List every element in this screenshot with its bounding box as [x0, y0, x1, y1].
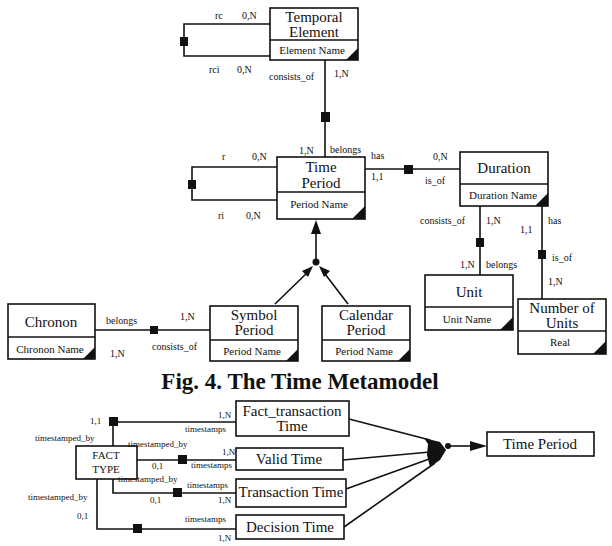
figure-caption: Fig. 4. The Time Metamodel: [161, 369, 438, 394]
entity-unit: Unit Unit Name: [425, 275, 513, 330]
generalization-fact-time-period: [343, 419, 487, 527]
role-label: timestamps: [191, 460, 232, 470]
entity-valid-time: Valid Time: [236, 448, 343, 470]
cardinality-label: 1,1: [90, 416, 101, 426]
relationship-marker-icon: [404, 165, 413, 174]
role-label: consists_of: [269, 71, 315, 82]
role-label: consists_of: [152, 341, 198, 352]
entity-title: Element: [289, 24, 340, 40]
entity-attribute: Period Name: [335, 345, 393, 357]
role-label: belongs: [330, 144, 361, 155]
relationship-marker-icon: [188, 180, 196, 189]
relationship-marker-icon: [538, 250, 546, 259]
entity-chronon: Chronon Chronon Name: [8, 304, 95, 359]
entity-number-of-units: Number of Units Real: [518, 299, 606, 354]
cardinality-label: 1,N: [334, 68, 349, 79]
role-label: timestamped_by: [128, 439, 188, 449]
entity-time-period-target: Time Period: [487, 432, 594, 456]
role-label: timestamped_by: [118, 474, 178, 484]
arrow-head-icon: [319, 266, 330, 277]
relationship-marker-icon: [321, 112, 330, 122]
relation-tp-duration: has 1,1 0,N is_of: [365, 150, 460, 186]
relation-transaction-time: timestamped_by 0,1 timestamps 1,N: [113, 474, 236, 505]
entity-title: Period: [346, 322, 386, 338]
role-label: timestamps: [185, 514, 226, 524]
entity-title: Calendar: [339, 307, 393, 323]
arrow-head-icon: [311, 220, 321, 234]
cardinality-label: 1,N: [218, 410, 232, 420]
role-label: ri: [218, 210, 224, 221]
entity-title: Temporal: [285, 9, 342, 25]
relation-duration-nou: has 1,1 is_of 1,N: [520, 206, 573, 299]
entity-attribute: Real: [550, 336, 570, 348]
entity-title: Time: [276, 418, 307, 434]
cardinality-label: 1,N: [110, 348, 125, 359]
cardinality-label: 0,N: [242, 10, 257, 21]
relation-tp-self: r 0,N ri 0,N: [188, 151, 277, 221]
cardinality-label: 1,N: [218, 533, 232, 543]
cardinality-label: 1,N: [180, 311, 195, 322]
entity-attribute: Period Name: [290, 198, 348, 210]
relationship-marker-icon: [150, 326, 158, 334]
entity-title: Period: [301, 175, 341, 191]
role-label: is_of: [552, 252, 573, 263]
role-label: belongs: [106, 315, 137, 326]
entity-title: FACT: [92, 449, 120, 461]
role-label: consists_of: [420, 215, 466, 226]
entity-temporal-element: Temporal Element Element Name: [270, 8, 358, 60]
entity-title: Time: [305, 159, 336, 175]
role-label: r: [222, 151, 226, 162]
relation-duration-unit: consists_of 1,N 1,N belongs: [420, 206, 517, 275]
cardinality-label: 0,N: [237, 64, 252, 75]
arrow-head-icon: [470, 441, 487, 451]
role-label: is_of: [425, 175, 446, 186]
entity-decision-time: Decision Time: [236, 515, 344, 539]
time-metamodel-diagram: Temporal Element Element Name rc 0,N rci…: [0, 0, 612, 546]
entity-attribute: Element Name: [279, 44, 345, 56]
entity-transaction-time: Transaction Time: [236, 479, 346, 507]
entity-attribute: Duration Name: [469, 189, 537, 201]
entity-title: Fact_transaction: [242, 403, 342, 419]
relationship-marker-icon: [173, 488, 182, 497]
entity-title: Duration: [477, 160, 531, 176]
role-label: timestamps: [185, 424, 226, 434]
cardinality-label: 1,N: [299, 145, 314, 156]
role-label: rci: [209, 64, 220, 75]
entity-symbol-period: Symbol Period Period Name: [210, 306, 298, 361]
entity-title: Transaction Time: [239, 484, 344, 500]
entity-fact-transaction-time: Fact_transaction Time: [236, 401, 349, 436]
role-label: timestamps: [187, 480, 228, 490]
entity-calendar-period: Calendar Period Period Name: [322, 306, 410, 361]
cardinality-label: 1,1: [371, 171, 384, 182]
cardinality-label: 1,N: [486, 215, 501, 226]
role-label: timestamped_by: [28, 492, 88, 502]
entity-title: TYPE: [92, 463, 120, 475]
entity-title: Unit: [456, 284, 484, 300]
cardinality-label: 0,1: [150, 495, 161, 505]
role-label: rc: [215, 10, 223, 21]
entity-attribute: Period Name: [223, 345, 281, 357]
cardinality-label: 0,1: [152, 461, 163, 471]
entity-attribute: Chronon Name: [16, 343, 84, 355]
cardinality-label: 0,N: [252, 151, 267, 162]
entity-title: Units: [546, 315, 579, 331]
role-label: has: [548, 215, 561, 226]
entity-title: Chronon: [25, 314, 78, 330]
relationship-marker-icon: [180, 37, 188, 46]
cardinality-label: 1,N: [460, 259, 475, 270]
cardinality-label: 0,1: [77, 511, 88, 521]
role-label: belongs: [486, 259, 517, 270]
cardinality-label: 1,1: [520, 224, 533, 235]
entity-duration: Duration Duration Name: [460, 152, 548, 206]
relationship-marker-icon: [476, 238, 484, 247]
entity-title: Number of: [529, 300, 594, 316]
entity-title: Period: [234, 322, 274, 338]
cardinality-label: 1,N: [548, 276, 563, 287]
entity-title: Symbol: [231, 307, 278, 323]
generalization-time-period: [275, 220, 348, 304]
relationship-marker-icon: [178, 455, 187, 464]
relation-te-tp: consists_of 1,N 1,N belongs: [269, 60, 361, 157]
role-label: has: [371, 150, 384, 161]
entity-title: Time Period: [503, 436, 578, 452]
junction-dot-icon: [313, 259, 320, 266]
